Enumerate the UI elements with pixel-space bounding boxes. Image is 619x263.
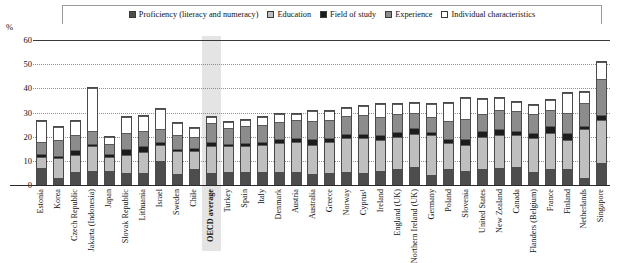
x-label-slot: France xyxy=(542,186,559,263)
bar-segment-dark-grey xyxy=(478,169,487,185)
bar-denmark[interactable] xyxy=(274,113,285,185)
x-label-slot: Flanders (Belgium) xyxy=(525,186,542,263)
bar-segment-dark-grey xyxy=(139,173,148,185)
bar-slot xyxy=(152,40,169,185)
x-axis-label-lithuania: Lithuania xyxy=(139,189,147,220)
bar-segment-white xyxy=(156,109,165,130)
bar-slot xyxy=(67,40,84,185)
bar-segment-dark-grey xyxy=(292,172,301,185)
bar-slovenia[interactable] xyxy=(460,97,471,185)
bar-ireland[interactable] xyxy=(375,103,386,185)
bar-italy[interactable] xyxy=(257,116,268,185)
bar-northern-ireland-uk[interactable] xyxy=(409,102,420,185)
bar-segment-light-grey xyxy=(461,145,470,170)
bar-segment-dark-grey xyxy=(427,175,436,185)
bar-oecd-average[interactable] xyxy=(206,116,217,185)
bar-segment-light-grey xyxy=(54,158,63,177)
bar-slot xyxy=(372,40,389,185)
bar-slot xyxy=(101,40,118,185)
bar-segment-white xyxy=(173,123,182,135)
bar-spain[interactable] xyxy=(240,119,251,185)
bar-segment-mid-grey xyxy=(410,113,419,129)
bar-france[interactable] xyxy=(545,99,556,185)
x-axis-label-flanders-belgium: Flanders (Belgium) xyxy=(529,189,537,253)
bar-austria[interactable] xyxy=(291,113,302,185)
x-axis-label-italy: Italy xyxy=(258,189,266,204)
x-label-slot: Denmark xyxy=(271,186,288,263)
bar-segment-mid-grey xyxy=(376,117,385,135)
bar-segment-mid-grey xyxy=(173,135,182,148)
bar-segment-black xyxy=(546,126,555,133)
bar-lithuania[interactable] xyxy=(138,115,149,185)
x-axis-label-france: France xyxy=(546,189,554,211)
bar-segment-light-grey xyxy=(444,143,453,170)
bar-segment-mid-grey xyxy=(495,110,504,129)
bar-czech-republic[interactable] xyxy=(70,120,81,185)
bar-segment-light-grey xyxy=(427,135,436,175)
bar-slot xyxy=(576,40,593,185)
bar-segment-mid-grey xyxy=(325,120,334,138)
bar-segment-white xyxy=(88,88,97,130)
bar-segment-mid-grey xyxy=(105,144,114,154)
x-axis-label-jakarta-indonesia: Jakarta (Indonesia) xyxy=(88,189,96,252)
bar-korea[interactable] xyxy=(53,126,64,185)
bar-segment-light-grey xyxy=(71,155,80,172)
x-label-slot: Czech Republic xyxy=(67,186,84,263)
x-axis-label-singapore: Singapore xyxy=(597,189,605,222)
x-label-slot: Norway xyxy=(338,186,355,263)
bar-segment-dark-grey xyxy=(410,167,419,185)
x-axis-label-greece: Greece xyxy=(326,189,334,212)
bar-slot xyxy=(355,40,372,185)
bar-new-zealand[interactable] xyxy=(494,97,505,185)
bar-slot xyxy=(237,40,254,185)
bar-segment-mid-grey xyxy=(190,137,199,148)
bar-slot xyxy=(474,40,491,185)
bar-segment-white xyxy=(495,98,504,110)
bar-segment-white xyxy=(308,111,317,121)
bar-australia[interactable] xyxy=(307,110,318,185)
bar-segment-light-grey xyxy=(546,133,555,169)
y-axis-tick-30: 30 xyxy=(10,108,32,117)
bar-segment-light-grey xyxy=(190,151,199,169)
bar-flanders-belgium[interactable] xyxy=(528,104,539,185)
bar-singapore[interactable] xyxy=(596,61,607,185)
bar-finland[interactable] xyxy=(562,92,573,185)
x-label-slot: United States xyxy=(474,186,491,263)
x-axis-label-israel: Israel xyxy=(156,189,164,207)
bar-segment-dark-grey xyxy=(376,171,385,186)
bar-united-states[interactable] xyxy=(477,98,488,185)
bar-germany[interactable] xyxy=(426,103,437,185)
bar-segment-light-grey xyxy=(88,146,97,170)
bar-israel[interactable] xyxy=(155,108,166,185)
bar-segment-mid-grey xyxy=(427,117,436,132)
x-label-slot: Chile xyxy=(186,186,203,263)
bar-segment-mid-grey xyxy=(512,111,521,130)
bar-jakarta-indonesia[interactable] xyxy=(87,87,98,185)
bar-england-uk[interactable] xyxy=(392,103,403,185)
bar-slovak-republic[interactable] xyxy=(121,116,132,185)
bar-segment-dark-grey xyxy=(224,172,233,185)
x-axis-label-finland: Finland xyxy=(563,189,571,214)
bar-segment-mid-grey xyxy=(342,116,351,134)
x-label-slot: Korea xyxy=(50,186,67,263)
bar-canada[interactable] xyxy=(511,101,522,185)
bar-netherlands[interactable] xyxy=(579,91,590,185)
bar-estonia[interactable] xyxy=(36,120,47,185)
bar-segment-dark-grey xyxy=(275,172,284,185)
x-label-slot: Japan xyxy=(101,186,118,263)
bar-norway[interactable] xyxy=(341,107,352,185)
bar-chile[interactable] xyxy=(189,127,200,185)
bar-slot xyxy=(305,40,322,185)
bar-sweden[interactable] xyxy=(172,122,183,185)
bar-poland[interactable] xyxy=(443,102,454,185)
bar-cyprus[interactable] xyxy=(358,105,369,185)
bar-turkey[interactable] xyxy=(223,121,234,185)
bar-segment-dark-grey xyxy=(495,168,504,185)
bar-japan[interactable] xyxy=(104,136,115,185)
bar-greece[interactable] xyxy=(324,110,335,185)
bar-segment-dark-grey xyxy=(461,171,470,186)
bar-segment-dark-grey xyxy=(546,169,555,185)
bar-segment-white xyxy=(546,100,555,110)
bar-segment-white xyxy=(190,128,199,136)
bar-slot xyxy=(50,40,67,185)
